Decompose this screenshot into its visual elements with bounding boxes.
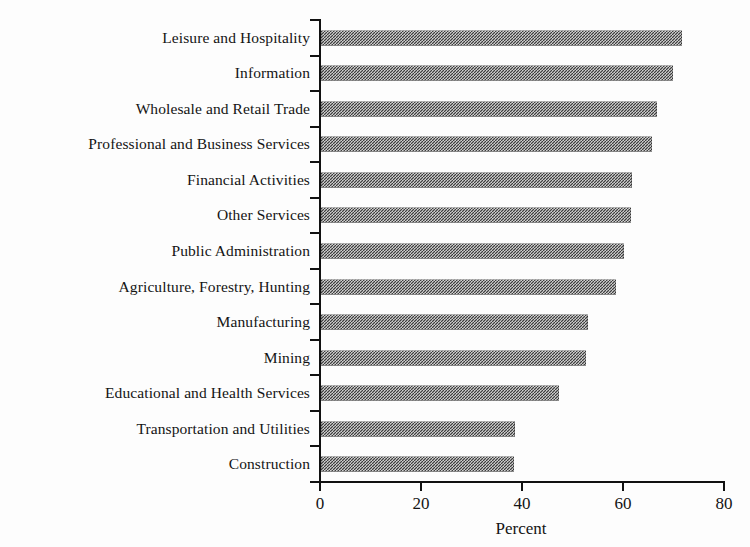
bar [321,30,682,45]
category-label: Manufacturing [217,314,310,330]
bar [321,350,586,365]
category-label: Agriculture, Forestry, Hunting [119,279,310,295]
y-axis-tick [310,19,321,21]
category-label: Transportation and Utilities [136,421,310,437]
category-label: Wholesale and Retail Trade [136,101,310,117]
y-axis-tick [310,445,321,447]
bar [321,315,588,330]
bar [321,172,632,187]
category-label: Construction [229,456,310,472]
bar-row: Financial Activities [0,162,750,198]
bar-rows-container: Leisure and HospitalityInformationWholes… [0,20,750,482]
bar [321,386,559,401]
bar-row: Wholesale and Retail Trade [0,91,750,127]
bar-row: Other Services [0,198,750,234]
bar-row: Leisure and Hospitality [0,20,750,56]
y-axis-tick [310,339,321,341]
bar [321,457,514,472]
bar-row: Mining [0,340,750,376]
bar-row: Agriculture, Forestry, Hunting [0,269,750,305]
bar-chart: Leisure and HospitalityInformationWholes… [0,0,750,547]
x-axis-tick-label: 20 [413,495,430,512]
y-axis-tick [310,161,321,163]
y-axis-tick [310,481,321,483]
x-axis-tick-label: 60 [615,495,632,512]
y-axis-tick [310,374,321,376]
bar [321,243,624,258]
bar [321,66,673,81]
bar [321,208,631,223]
category-label: Professional and Business Services [88,137,310,153]
y-axis-tick [310,90,321,92]
y-axis-tick [310,232,321,234]
bar [321,421,515,436]
bar [321,137,652,152]
y-axis-tick [310,410,321,412]
y-axis-tick [310,55,321,57]
bar-row: Educational and Health Services [0,375,750,411]
bar-row: Transportation and Utilities [0,411,750,447]
x-axis-tick [723,481,725,491]
x-axis-title: Percent [496,520,547,537]
bar-row: Manufacturing [0,304,750,340]
category-label: Mining [264,350,310,366]
x-axis-tick-label: 0 [316,495,325,512]
category-label: Financial Activities [187,172,310,188]
x-axis-tick [622,481,624,491]
bar [321,279,616,294]
y-axis-tick [310,197,321,199]
y-axis-tick [310,126,321,128]
category-label: Leisure and Hospitality [162,30,310,46]
y-axis-tick [310,268,321,270]
category-label: Other Services [217,208,310,224]
bar-row: Construction [0,446,750,482]
category-label: Information [235,66,310,82]
x-axis-tick-label: 80 [716,495,733,512]
bar-row: Information [0,56,750,92]
x-axis-tick [420,481,422,491]
bar [321,101,657,116]
x-axis-tick-label: 40 [514,495,531,512]
category-label: Educational and Health Services [105,385,310,401]
y-axis-tick [310,303,321,305]
bar-row: Public Administration [0,233,750,269]
bar-row: Professional and Business Services [0,127,750,163]
x-axis-tick [521,481,523,491]
category-label: Public Administration [171,243,310,259]
